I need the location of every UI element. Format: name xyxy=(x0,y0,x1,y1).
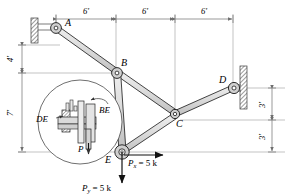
engineering-diagram: 6' 6' 6' 4' 7' 3' 3' xyxy=(0,0,293,196)
load-label-px: Px= 5 k xyxy=(127,158,157,169)
py-value: = 5 k xyxy=(92,183,111,193)
pin-joint-b xyxy=(112,68,123,79)
svg-text:Px= 5 k: Px= 5 k xyxy=(127,158,157,169)
py-subscript: y xyxy=(87,187,91,194)
joint-label-a: A xyxy=(64,17,72,28)
px-value: = 5 k xyxy=(138,158,157,168)
pin-joint-d xyxy=(228,82,239,93)
member-ab xyxy=(53,24,122,76)
load-label-py: Py= 5 k xyxy=(81,183,111,194)
detail-inset: DE BE P xyxy=(35,80,122,164)
dim-label-top-1: 6' xyxy=(83,6,89,16)
frame-diagram-svg: 6' 6' 6' 4' 7' 3' 3' xyxy=(0,0,293,196)
member-cd xyxy=(174,85,236,117)
dim-label-right-3ft-lower: 3' xyxy=(257,134,267,141)
inset-label-de: DE xyxy=(35,114,48,124)
dim-label-right-3ft-upper: 3' xyxy=(257,102,267,109)
dim-label-left-4ft: 4' xyxy=(5,56,15,62)
horizontal-dimension-group xyxy=(56,15,233,23)
dim-label-left-7ft: 7' xyxy=(5,110,15,116)
member-bc xyxy=(116,70,178,116)
vertical-dimension-right-group xyxy=(268,88,276,152)
inset-label-p: P xyxy=(77,144,84,154)
pin-joint-a xyxy=(51,23,62,34)
joint-label-b: B xyxy=(121,57,127,68)
vertical-dimension-left-group xyxy=(18,45,26,152)
joint-label-c: C xyxy=(176,118,183,129)
dim-label-top-3: 6' xyxy=(201,6,207,16)
inset-plate-be-inner xyxy=(78,101,84,143)
joint-label-d: D xyxy=(218,74,227,85)
svg-text:Py= 5 k: Py= 5 k xyxy=(81,183,111,194)
dim-label-top-2: 6' xyxy=(142,6,148,16)
inset-label-be: BE xyxy=(99,105,110,115)
px-subscript: x xyxy=(133,162,137,169)
